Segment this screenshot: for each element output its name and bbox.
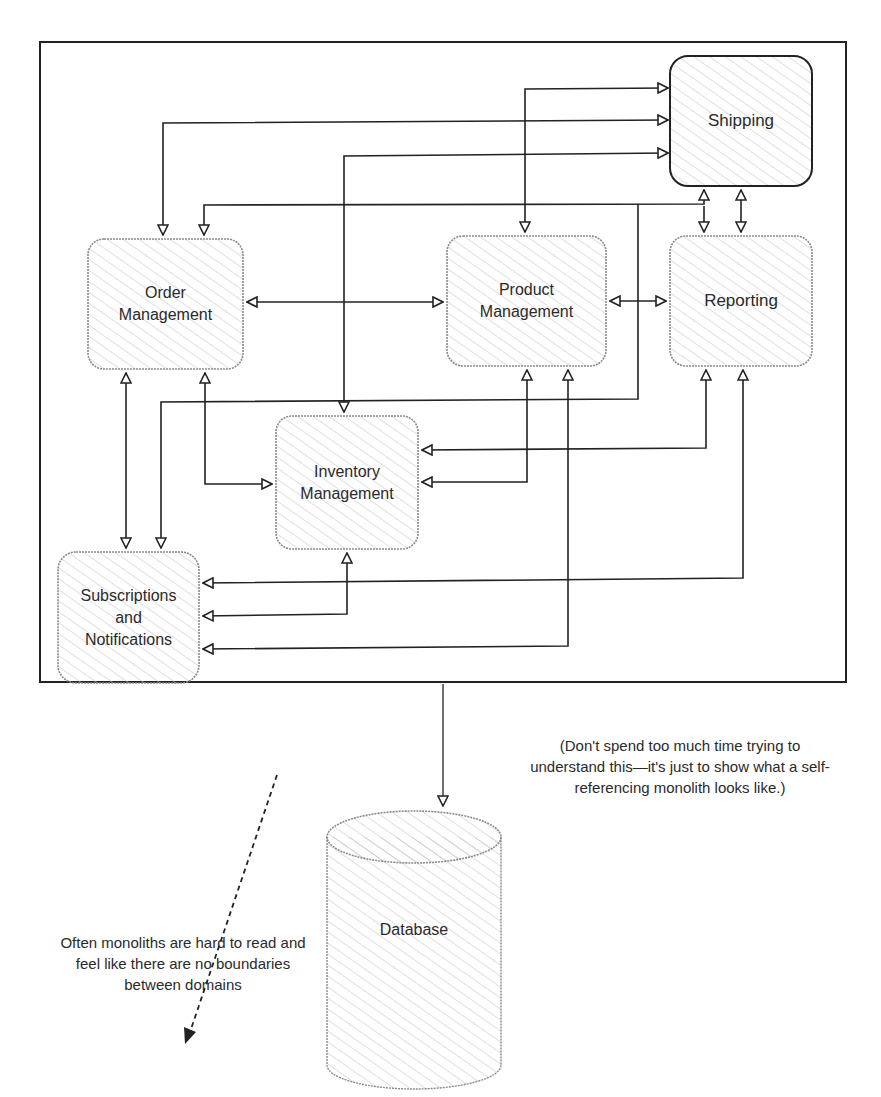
- arrow-product-inventory: [422, 370, 527, 482]
- arrow-reporting-inventory: [422, 370, 706, 450]
- annotation-arrowhead-icon: [184, 1027, 196, 1044]
- subscriptions-notifications-label: Subscriptions and Notifications: [58, 552, 199, 683]
- arrow-order-shipping: [163, 120, 668, 235]
- order-management-label: Order Management: [88, 239, 243, 369]
- arrow-product-shipping: [525, 88, 668, 232]
- arrow-order-inventory: [205, 373, 272, 484]
- aside-note: (Don't spend too much time trying to und…: [530, 735, 830, 798]
- caption-note: Often monoliths are hard to read and fee…: [48, 932, 318, 995]
- product-management-label: Product Management: [447, 236, 606, 366]
- shipping-label: Shipping: [670, 56, 812, 186]
- reporting-label: Reporting: [670, 236, 812, 366]
- connectors: [126, 88, 743, 806]
- inventory-management-label: Inventory Management: [276, 416, 418, 549]
- database-label: Database: [327, 900, 501, 960]
- arrow-inventory-subs: [203, 553, 347, 616]
- arrow-reporting-order: [204, 190, 704, 235]
